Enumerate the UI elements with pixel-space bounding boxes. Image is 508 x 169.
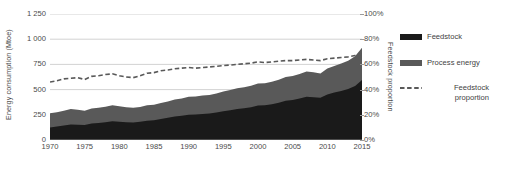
y-axis-right-tick-label: 100% — [364, 10, 383, 18]
legend-item-label: Feedstock — [427, 32, 462, 42]
y-axis-left-tick-label: 250 — [33, 111, 46, 119]
legend-item[interactable]: Feedstockproportion — [400, 83, 506, 102]
legend-dashed-line-icon — [400, 84, 422, 92]
x-axis-tick-label: 2015 — [354, 143, 371, 151]
x-axis-tick-label: 1980 — [111, 143, 128, 151]
y-axis-right-tick-mark — [360, 64, 364, 65]
legend-color-swatch — [400, 34, 422, 40]
y-axis-right-tick-label: 60% — [364, 60, 379, 68]
y-axis-right-title: Feedstock proportion — [384, 14, 396, 139]
x-axis-tick-label: 1970 — [42, 143, 59, 151]
y-axis-right-tick-mark — [360, 115, 364, 116]
y-axis-right-tick-label: 80% — [364, 35, 379, 43]
plot-area — [50, 14, 362, 140]
legend-color-swatch — [400, 60, 422, 66]
y-axis-left-tick-label: 1 250 — [27, 10, 46, 18]
y-axis-right-tick-mark — [360, 140, 364, 141]
x-axis-tick-label: 1990 — [180, 143, 197, 151]
y-axis-left-tick-label: 750 — [33, 60, 46, 68]
energy-consumption-chart: Energy consumption (Mtoe) 02505007501 00… — [0, 0, 508, 169]
x-axis-tick-label: 1985 — [146, 143, 163, 151]
x-axis-tick-label: 1995 — [215, 143, 232, 151]
y-axis-left-tick-label: 500 — [33, 86, 46, 94]
y-axis-right-tick-label: 20% — [364, 111, 379, 119]
x-axis-tick-label: 2000 — [250, 143, 267, 151]
chart-legend: FeedstockProcess energyFeedstockproporti… — [400, 32, 506, 118]
x-axis-tick-label: 1975 — [76, 143, 93, 151]
y-axis-left-tick-label: 1 000 — [27, 35, 46, 43]
x-axis-tick-label: 2010 — [319, 143, 336, 151]
x-axis-tick-label: 2005 — [284, 143, 301, 151]
y-axis-right-tick-label: 40% — [364, 86, 379, 94]
y-axis-right-tick-mark — [360, 39, 364, 40]
legend-item[interactable]: Process energy — [400, 58, 506, 68]
x-axis-ticks: 1970197519801985199019952000200520102015 — [50, 143, 362, 157]
legend-item-label: Process energy — [427, 58, 480, 68]
y-axis-right-tick-mark — [360, 14, 364, 15]
legend-item[interactable]: Feedstock — [400, 32, 506, 42]
legend-item-label: Feedstockproportion — [427, 83, 489, 102]
y-axis-right-tick-mark — [360, 90, 364, 91]
chart-plot-svg — [50, 14, 362, 140]
y-axis-left-ticks: 02505007501 0001 250 — [14, 14, 46, 140]
